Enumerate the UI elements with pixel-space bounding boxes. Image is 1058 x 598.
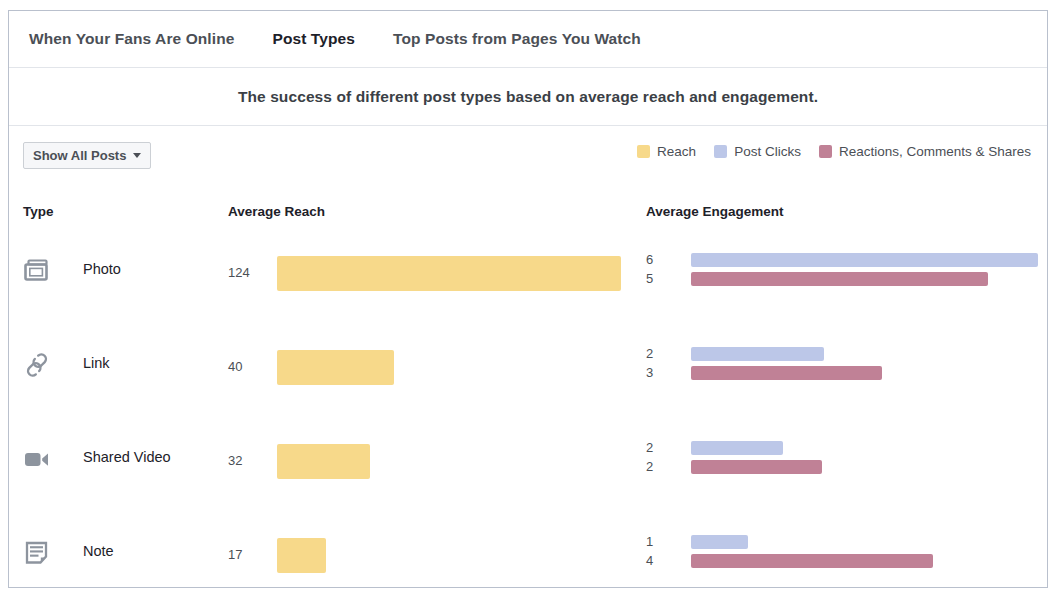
tab-when-your-fans-are-online[interactable]: When Your Fans Are Online	[29, 30, 234, 48]
average-reach-value: 17	[228, 547, 242, 562]
chart-legend: ReachPost ClicksReactions, Comments & Sh…	[627, 144, 1031, 159]
link-icon	[22, 350, 52, 380]
reactions-value: 4	[646, 553, 653, 568]
video-icon	[22, 444, 52, 474]
insights-tab-bar: When Your Fans Are OnlinePost TypesTop P…	[9, 11, 1047, 68]
column-header-average-engagement: Average Engagement	[646, 204, 784, 219]
controls-row: Show All Posts ReachPost ClicksReactions…	[9, 126, 1047, 188]
table-row[interactable]: Shared Video3222	[9, 418, 1047, 512]
post-clicks-value: 2	[646, 440, 653, 455]
legend-label: Reach	[657, 144, 696, 159]
table-row[interactable]: Photo12465	[9, 230, 1047, 324]
column-headers: Type Average Reach Average Engagement	[9, 188, 1047, 230]
post-clicks-bar	[691, 535, 748, 549]
legend-swatch-icon	[637, 145, 650, 158]
legend-item-reach[interactable]: Reach	[637, 144, 696, 159]
chevron-down-icon	[133, 153, 141, 158]
average-reach-value: 40	[228, 359, 242, 374]
column-header-type: Type	[23, 204, 54, 219]
column-header-average-reach: Average Reach	[228, 204, 325, 219]
average-reach-value: 32	[228, 453, 242, 468]
post-type-label: Note	[83, 543, 114, 559]
table-row[interactable]: Link4023	[9, 324, 1047, 418]
reactions-bar	[691, 272, 988, 286]
post-type-rows: Photo12465Link4023Shared Video3222Note17…	[9, 230, 1047, 598]
reactions-value: 2	[646, 459, 653, 474]
post-clicks-value: 2	[646, 346, 653, 361]
legend-label: Post Clicks	[734, 144, 801, 159]
reach-bar	[277, 538, 326, 573]
reach-bar	[277, 444, 370, 479]
show-all-posts-dropdown[interactable]: Show All Posts	[23, 142, 151, 169]
post-type-label: Photo	[83, 261, 121, 277]
average-reach-value: 124	[228, 265, 250, 280]
reactions-bar	[691, 460, 822, 474]
legend-swatch-icon	[714, 145, 727, 158]
table-row[interactable]: Note1714	[9, 512, 1047, 598]
legend-item-reactions-comments-shares[interactable]: Reactions, Comments & Shares	[819, 144, 1031, 159]
post-clicks-value: 6	[646, 252, 653, 267]
tab-post-types[interactable]: Post Types	[272, 30, 355, 48]
post-clicks-bar	[691, 253, 1038, 267]
tab-top-posts-from-pages-you-watch[interactable]: Top Posts from Pages You Watch	[393, 30, 641, 48]
show-all-posts-label: Show All Posts	[33, 148, 126, 163]
reactions-bar	[691, 554, 933, 568]
post-clicks-value: 1	[646, 534, 653, 549]
post-type-label: Shared Video	[83, 449, 171, 465]
reactions-value: 5	[646, 271, 653, 286]
reach-bar	[277, 256, 621, 291]
reactions-value: 3	[646, 365, 653, 380]
note-icon	[22, 538, 52, 568]
legend-label: Reactions, Comments & Shares	[839, 144, 1031, 159]
subtitle-bar: The success of different post types base…	[9, 68, 1047, 126]
page-subtitle: The success of different post types base…	[238, 88, 818, 106]
reactions-bar	[691, 366, 882, 380]
post-types-card: When Your Fans Are OnlinePost TypesTop P…	[8, 10, 1048, 588]
legend-item-post-clicks[interactable]: Post Clicks	[714, 144, 801, 159]
post-clicks-bar	[691, 347, 824, 361]
legend-swatch-icon	[819, 145, 832, 158]
post-type-label: Link	[83, 355, 110, 371]
photo-icon	[22, 256, 52, 286]
post-clicks-bar	[691, 441, 783, 455]
reach-bar	[277, 350, 394, 385]
